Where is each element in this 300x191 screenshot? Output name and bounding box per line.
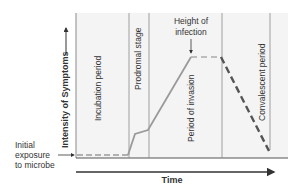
y-axis-label: Intensity of Symptoms <box>60 51 70 148</box>
exposure-annotation-line1: Initial <box>15 140 35 150</box>
exposure-annotation-line2: exposure <box>15 150 50 160</box>
peak-annotation-line2: infection <box>175 27 207 37</box>
stage-label-convalescent: Convalescent period <box>257 43 267 121</box>
stage-label-invasion: Period of invasion <box>186 74 196 142</box>
stage-label-incubation: Incubation period <box>93 56 103 121</box>
disease-stage-diagram: Intensity of Symptoms Incubation period … <box>0 0 300 191</box>
exposure-annotation-line3: to microbe <box>15 160 55 170</box>
peak-annotation-line1: Height of <box>174 16 209 26</box>
stage-label-prodromal: Prodromal stage <box>133 27 143 90</box>
x-axis-label: Time <box>162 175 183 185</box>
